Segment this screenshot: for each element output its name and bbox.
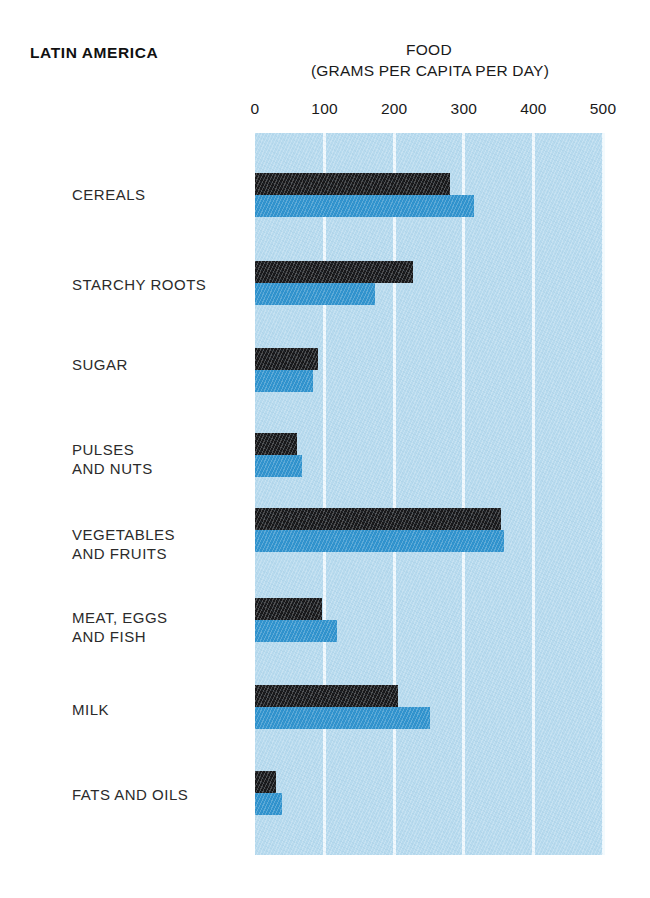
bar-dark-6 [255,685,398,707]
x-tick-label-400: 400 [520,100,546,118]
category-label-line: CEREALS [72,185,243,204]
bar-dark-1 [255,261,413,283]
x-tick-label-0: 0 [251,100,260,118]
gridline-200 [393,133,396,855]
bar-light-1 [255,283,375,305]
gridline-400 [532,133,535,855]
bar-dark-2 [255,348,318,370]
chart-subtitle: (GRAMS PER CAPITA PER DAY) [215,62,645,80]
category-label-line: SUGAR [72,355,243,374]
plot-area [255,133,603,855]
category-label-line: STARCHY ROOTS [72,275,243,294]
category-label-7: FATS AND OILS [72,785,243,804]
x-tick-label-500: 500 [590,100,616,118]
category-label-2: SUGAR [72,355,243,374]
gridline-500 [602,133,605,855]
category-label-line: AND FRUITS [72,544,243,563]
category-label-3: PULSESAND NUTS [72,440,243,478]
bar-dark-3 [255,433,297,455]
bar-light-0 [255,195,474,217]
bar-dark-0 [255,173,450,195]
paper-grain-texture [255,133,603,855]
category-label-5: MEAT, EGGSAND FISH [72,608,243,646]
gridline-300 [462,133,465,855]
region-title: LATIN AMERICA [30,44,158,62]
category-label-line: FATS AND OILS [72,785,243,804]
chart-title: FOOD [255,41,603,59]
x-axis-tick-labels: 0100200300400500 [0,100,650,124]
bar-light-6 [255,707,430,729]
bar-dark-4 [255,508,501,530]
bar-dark-7 [255,771,276,793]
category-label-0: CEREALS [72,185,243,204]
category-label-1: STARCHY ROOTS [72,275,243,294]
category-label-line: AND NUTS [72,459,243,478]
bar-light-5 [255,620,337,642]
chart-page: LATIN AMERICA FOOD (GRAMS PER CAPITA PER… [0,0,650,898]
category-label-line: MEAT, EGGS [72,608,243,627]
category-label-6: MILK [72,700,243,719]
category-label-line: PULSES [72,440,243,459]
category-label-4: VEGETABLESAND FRUITS [72,525,243,563]
category-label-line: MILK [72,700,243,719]
category-label-line: AND FISH [72,627,243,646]
gridline-100 [323,133,326,855]
x-tick-label-100: 100 [311,100,337,118]
bar-light-3 [255,455,302,477]
bar-light-7 [255,793,282,815]
bar-dark-5 [255,598,322,620]
bar-light-2 [255,370,313,392]
x-tick-label-200: 200 [381,100,407,118]
category-label-line: VEGETABLES [72,525,243,544]
x-tick-label-300: 300 [451,100,477,118]
bar-light-4 [255,530,504,552]
